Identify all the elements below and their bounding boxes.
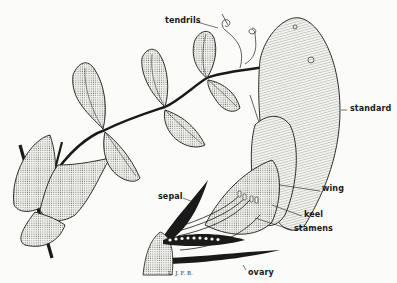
label-standard: standard [350, 104, 391, 113]
label-ovary: ovary [248, 268, 274, 277]
pea-plant-illustration [0, 0, 397, 283]
stipules [13, 135, 110, 246]
artist-signature: L. J. F. B. [168, 270, 193, 276]
label-keel: keel [304, 210, 323, 219]
label-tendrils: tendrils [165, 16, 201, 25]
diagram-canvas: tendrils standard wing keel stamens sepa… [0, 0, 397, 283]
label-wing: wing [322, 184, 344, 193]
leaflets [73, 31, 240, 181]
label-sepal: sepal [158, 192, 183, 201]
keel-petal [205, 160, 280, 234]
label-stamens: stamens [294, 224, 333, 233]
